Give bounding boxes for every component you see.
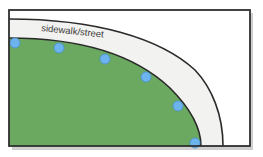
sprinkler-dot [100, 54, 110, 64]
sprinkler-dot [10, 38, 20, 48]
sprinkler-dot [141, 72, 151, 82]
sprinkler-dot [173, 101, 183, 111]
sidewalk-diagram: sidewalk/street [0, 0, 263, 157]
sprinkler-dot [54, 43, 64, 53]
